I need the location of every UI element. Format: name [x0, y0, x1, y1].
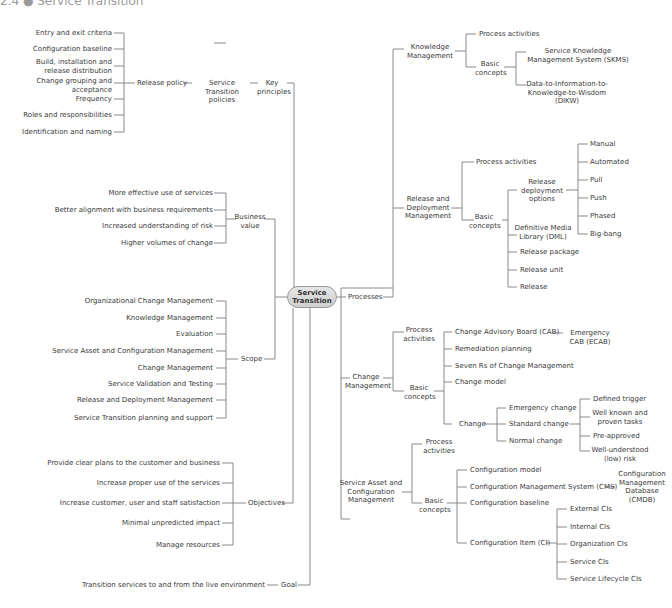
- standard-attribute[interactable]: Well known and proven tasks: [590, 409, 650, 426]
- cm-concept[interactable]: Change model: [455, 378, 506, 387]
- ci-type[interactable]: Organization CIs: [570, 540, 628, 549]
- deployment-option[interactable]: Phased: [590, 212, 615, 221]
- km-basic-concepts[interactable]: Basic concepts: [475, 60, 505, 77]
- ci-type[interactable]: Service CIs: [570, 558, 609, 567]
- bv-item[interactable]: More effective use of services: [108, 189, 213, 198]
- kp-item[interactable]: Build, installation and release distribu…: [22, 58, 112, 75]
- ci-type[interactable]: Service Lifecycle CIs: [570, 575, 642, 584]
- kp-item[interactable]: Identification and naming: [22, 128, 112, 137]
- rdm-concept[interactable]: Definitive Media Library (DML): [513, 224, 573, 241]
- sacm-basic-concepts[interactable]: Basic concepts: [419, 497, 449, 514]
- change-type[interactable]: Standard change: [509, 420, 569, 429]
- kp-item[interactable]: Entry and exit criteria: [36, 29, 112, 38]
- deployment-option[interactable]: Automated: [590, 158, 629, 167]
- scope-item[interactable]: Service Transition planning and support: [74, 414, 213, 423]
- km-process-activities[interactable]: Process activities: [479, 30, 539, 39]
- scope-item[interactable]: Release and Deployment Management: [77, 396, 213, 405]
- km-concept[interactable]: Service Knowledge Management System (SKM…: [526, 47, 630, 64]
- release-deployment-node[interactable]: Release and Deployment Management: [403, 195, 453, 221]
- km-concept[interactable]: Data-to-Information-to-Knowledge-to-Wisd…: [517, 80, 617, 106]
- cmdb-node[interactable]: Configuration Management Database (CMDB): [612, 470, 672, 504]
- cab-node[interactable]: Change Advisory Board (CAB): [455, 328, 559, 337]
- kp-item[interactable]: Configuration baseline: [33, 45, 112, 54]
- sacm-concept[interactable]: Configuration Management System (CMS): [470, 483, 617, 492]
- change-management-node[interactable]: Change Management: [345, 373, 387, 390]
- rdm-basic-concepts[interactable]: Basic concepts: [469, 213, 499, 230]
- bv-item[interactable]: Higher volumes of change: [121, 239, 213, 248]
- scope-item[interactable]: Evaluation: [176, 330, 213, 339]
- release-policy-node[interactable]: Release policy: [137, 79, 187, 88]
- rdm-process-activities[interactable]: Process activities: [476, 158, 536, 167]
- mind-map: 2.4 ● Service Transition: [0, 0, 672, 608]
- scope-item[interactable]: Knowledge Management: [126, 314, 213, 323]
- cm-concept[interactable]: Seven Rs of Change Management: [455, 362, 574, 371]
- cm-process-activities[interactable]: Process activities: [402, 326, 436, 343]
- sacm-process-activities[interactable]: Process activities: [422, 438, 456, 455]
- sacm-concept[interactable]: Configuration Item (CI): [470, 539, 550, 548]
- deployment-option[interactable]: Pull: [590, 176, 602, 185]
- root-label-line2: Transition: [288, 297, 336, 305]
- processes-node[interactable]: Processes: [348, 293, 383, 302]
- service-transition-policies-node[interactable]: Service Transition policies: [193, 79, 251, 105]
- scope-node[interactable]: Scope: [241, 355, 262, 364]
- bv-item[interactable]: Increased understanding of risk: [102, 222, 213, 231]
- ci-type[interactable]: External CIs: [570, 505, 612, 514]
- change-type[interactable]: Emergency change: [509, 404, 576, 413]
- standard-attribute[interactable]: Pre-approved: [593, 432, 640, 441]
- rdm-concept[interactable]: Release: [520, 283, 547, 292]
- rdm-concept[interactable]: Release unit: [520, 266, 563, 275]
- scope-item[interactable]: Change Management: [138, 364, 213, 373]
- bv-item[interactable]: Better alignment with business requireme…: [55, 206, 213, 215]
- knowledge-management-node[interactable]: Knowledge Management: [404, 43, 456, 60]
- deployment-option[interactable]: Manual: [590, 140, 615, 149]
- objective-item[interactable]: Increase customer, user and staff satisf…: [60, 499, 220, 508]
- scope-item[interactable]: Service Validation and Testing: [108, 380, 213, 389]
- objective-item[interactable]: Increase proper use of the services: [97, 479, 220, 488]
- objective-item[interactable]: Manage resources: [156, 541, 220, 550]
- deployment-option[interactable]: Big-bang: [590, 230, 621, 239]
- key-principles-node[interactable]: Key principles: [257, 79, 287, 96]
- release-deployment-options-node[interactable]: Release deployment options: [519, 178, 565, 204]
- root-label-line1: Service: [288, 289, 336, 297]
- sacm-concept[interactable]: Configuration baseline: [470, 499, 549, 508]
- goal-node[interactable]: Goal: [281, 581, 297, 590]
- sacm-concept[interactable]: Configuration model: [470, 466, 542, 475]
- scope-item[interactable]: Organizational Change Management: [85, 297, 213, 306]
- kp-item[interactable]: Roles and responsibilities: [23, 111, 112, 120]
- rdm-concept[interactable]: Release package: [520, 248, 579, 257]
- change-node[interactable]: Change: [459, 420, 486, 429]
- kp-item[interactable]: Change grouping and acceptance: [32, 77, 112, 94]
- scope-item[interactable]: Service Asset and Configuration Manageme…: [52, 347, 213, 356]
- cm-concept[interactable]: Remediation planning: [455, 345, 532, 354]
- objective-item[interactable]: Minimal unpredicted impact: [122, 519, 220, 528]
- deployment-option[interactable]: Push: [590, 194, 607, 203]
- business-value-node[interactable]: Business value: [234, 213, 266, 230]
- goal-item[interactable]: Transition services to and from the live…: [82, 581, 265, 590]
- objective-item[interactable]: Provide clear plans to the customer and …: [47, 459, 220, 468]
- ecab-node[interactable]: Emergency CAB (ECAB): [565, 329, 615, 346]
- kp-item[interactable]: Frequency: [76, 95, 112, 104]
- standard-attribute[interactable]: Defined trigger: [593, 395, 646, 404]
- ci-type[interactable]: Internal CIs: [570, 523, 610, 532]
- objectives-node[interactable]: Objectives: [248, 499, 285, 508]
- cm-basic-concepts[interactable]: Basic concepts: [404, 384, 434, 401]
- standard-attribute[interactable]: Well-understood (low) risk: [590, 446, 650, 463]
- change-type[interactable]: Normal change: [509, 437, 562, 446]
- sacm-node[interactable]: Service Asset and Configuration Manageme…: [338, 479, 404, 505]
- root-node-service-transition[interactable]: Service Transition: [287, 286, 337, 308]
